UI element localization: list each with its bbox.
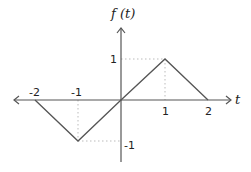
function-plot: f (t) t -2 -1 1 2 1 -1 [0,0,251,172]
y-axis-label: f (t) [110,6,135,21]
x-axis-label: t [235,92,241,107]
tick-y-minus-1: -1 [124,139,135,152]
tick-x-minus-2: -2 [29,86,40,99]
x-axis [14,96,231,104]
tick-x-1: 1 [162,105,169,118]
tick-y-1: 1 [110,53,117,66]
tick-x-2: 2 [205,105,212,118]
tick-x-minus-1: -1 [71,86,82,99]
